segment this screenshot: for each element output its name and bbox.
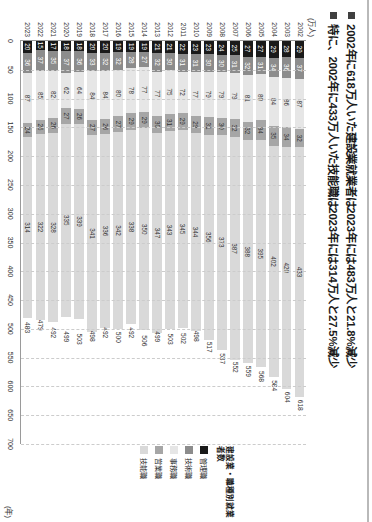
bar-segment[interactable]: 19 [126, 41, 136, 52]
bar-total-label: 500 [115, 332, 122, 343]
bar-segment[interactable]: 338 [126, 130, 136, 325]
bar-segment[interactable]: 339 [74, 124, 84, 319]
bar-total-label: 559 [244, 366, 251, 377]
bar-segment[interactable]: 345 [178, 130, 188, 329]
bar-segment[interactable]: 34 [256, 120, 266, 140]
bar-segment[interactable]: 25 [230, 41, 240, 55]
bar-segment[interactable]: 420 [282, 147, 292, 389]
bar-segment[interactable]: 24 [217, 41, 227, 55]
bar-segment[interactable]: 37 [295, 58, 305, 79]
bar-segment[interactable]: 32 [100, 53, 110, 71]
legend-item[interactable]: 営業職 [154, 446, 164, 518]
bar-segment[interactable]: 80 [256, 74, 266, 120]
bar-segment[interactable]: 31 [165, 114, 175, 132]
bar-segment[interactable]: 20 [100, 41, 110, 53]
bar-segment[interactable]: 322 [36, 134, 46, 319]
bar-segment[interactable]: 64 [74, 72, 84, 109]
bar-segment[interactable]: 347 [152, 133, 162, 333]
bar-segment[interactable]: 328 [48, 133, 58, 322]
bar-segment[interactable]: 84 [100, 71, 110, 119]
bar-segment[interactable]: 17 [48, 41, 58, 51]
bar-segment[interactable]: 23 [204, 41, 214, 54]
bar-segment[interactable]: 27 [256, 41, 266, 57]
bar-segment[interactable]: 30 [165, 53, 175, 70]
bar-segment[interactable]: 34 [269, 58, 279, 78]
bar-segment[interactable]: 314 [23, 137, 33, 318]
bar-segment[interactable]: 336 [100, 134, 110, 327]
bar-segment[interactable]: 79 [204, 72, 214, 117]
bar-segment[interactable]: 402 [269, 146, 279, 377]
bar-segment[interactable]: 22 [178, 41, 188, 54]
bar-segment[interactable]: 84 [87, 71, 97, 119]
bar-segment[interactable]: 23 [191, 41, 201, 54]
bar-segment[interactable]: 34 [282, 127, 292, 147]
bar-segment[interactable]: 341 [87, 135, 97, 331]
bar-segment[interactable]: 32 [295, 129, 305, 147]
bar-segment[interactable]: 29 [295, 41, 305, 58]
bar-segment[interactable]: 87 [295, 79, 305, 129]
bar-segment[interactable]: 344 [191, 133, 201, 331]
bar-segment[interactable]: 27 [113, 116, 123, 132]
bar-segment[interactable]: 387 [230, 137, 240, 360]
bar-segment[interactable]: 72 [178, 72, 188, 113]
bar-segment[interactable]: 30 [217, 118, 227, 135]
bar-segment[interactable]: 77 [139, 67, 149, 111]
bar-segment[interactable]: 26 [48, 118, 58, 133]
bar-segment[interactable]: 19 [113, 41, 123, 52]
bar-segment[interactable]: 27 [139, 52, 149, 68]
bar-segment[interactable]: 77 [191, 72, 201, 116]
bar-segment[interactable]: 24 [23, 123, 33, 137]
bar-segment[interactable]: 62 [61, 73, 71, 109]
bar-segment[interactable]: 18 [61, 41, 71, 51]
legend-item[interactable]: 管理職 [199, 446, 209, 518]
bar-segment[interactable]: 32 [243, 57, 253, 75]
bar-segment[interactable]: 356 [204, 135, 214, 340]
bar-segment[interactable]: 37 [36, 50, 46, 71]
bar-segment[interactable]: 28 [126, 52, 136, 68]
bar-segment[interactable]: 32 [113, 52, 123, 70]
bar-segment[interactable]: 84 [269, 77, 279, 125]
bar-segment[interactable]: 18 [74, 41, 84, 51]
bar-segment[interactable]: 26 [74, 109, 84, 124]
axis-unit-label: (万人) [307, 18, 318, 37]
bar-segment[interactable]: 15 [36, 41, 46, 50]
bar-segment[interactable]: 75 [165, 70, 175, 113]
bar-segment[interactable]: 79 [217, 72, 227, 117]
bar-segment[interactable]: 80 [113, 70, 123, 116]
bar-segment[interactable]: 33 [87, 53, 97, 72]
bar-segment[interactable]: 86 [282, 78, 292, 128]
bar-segment[interactable]: 29 [139, 112, 149, 129]
bar-segment[interactable]: 35 [48, 51, 58, 71]
bar-total-label: 502 [179, 333, 186, 344]
bar-segment[interactable]: 31 [204, 117, 214, 135]
legend-item[interactable]: 事務職 [169, 446, 179, 518]
bar-segment[interactable]: 335 [61, 124, 71, 317]
y-axis-label: 2006 [244, 3, 251, 37]
bar-segment[interactable]: 21 [165, 41, 175, 53]
bar-segment[interactable]: 78 [126, 68, 136, 113]
legend-item[interactable]: 技能職 [139, 446, 149, 518]
bar-segment[interactable]: 82 [48, 71, 58, 118]
legend-item[interactable]: 技術職 [184, 446, 194, 518]
bar-segment[interactable]: 19 [139, 41, 149, 52]
bar-segment[interactable]: 395 [256, 140, 266, 367]
bar-segment[interactable]: 28 [282, 41, 292, 57]
bar-segment[interactable]: 77 [152, 72, 162, 116]
bar-segment[interactable]: 31 [256, 57, 266, 75]
bar-segment[interactable]: 20 [87, 41, 97, 53]
bar-segment[interactable]: 29 [269, 41, 279, 58]
bar-segment[interactable]: 85 [36, 71, 46, 120]
bar-segment[interactable]: 36 [282, 57, 292, 78]
bar-segment[interactable]: 388 [243, 140, 253, 363]
header-bullets: 2002年に618万人いた建設業就業者は2023年には483万人と21.8%減少… [321, 12, 358, 512]
bar-segment[interactable]: 35 [269, 126, 279, 146]
bar-segment[interactable]: 29 [191, 116, 201, 133]
bar-segment[interactable]: 30 [152, 116, 162, 133]
bar-segment[interactable]: 32 [243, 122, 253, 140]
bar-segment[interactable]: 79 [230, 73, 240, 118]
bar-segment[interactable]: 32 [152, 53, 162, 71]
bar-segment[interactable]: 21 [152, 41, 162, 53]
bar-segment[interactable]: 27 [243, 41, 253, 57]
bar-segment[interactable]: 20 [23, 41, 33, 53]
bar-segment[interactable]: 27 [61, 108, 71, 124]
